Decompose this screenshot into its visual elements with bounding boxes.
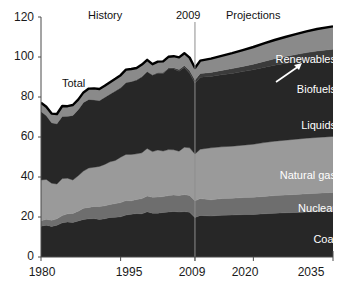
band-label-biofuels: Biofuels	[297, 84, 336, 95]
y-tick-label-100: 100	[0, 50, 34, 62]
x-tick-label-1995: 1995	[107, 266, 151, 278]
x-tick-label-2035: 2035	[288, 266, 334, 278]
y-tick-label-40: 40	[0, 170, 34, 182]
band-label-natural-gas: Natural gas	[280, 170, 336, 181]
projections-label: Projections	[226, 10, 280, 21]
band-label-renewables: Renewables	[275, 54, 336, 65]
total-label: Total	[62, 78, 85, 89]
y-tick-label-20: 20	[0, 210, 34, 222]
band-label-coal: Coal	[313, 234, 336, 245]
history-label: History	[88, 10, 122, 21]
y-tick-label-120: 120	[0, 11, 34, 23]
chart-root: 120 100 80 60 40 20 0 1980 1995 2009 202…	[0, 0, 344, 286]
y-tick-label-80: 80	[0, 90, 34, 102]
stacked-area-chart	[0, 0, 344, 286]
band-label-nuclear: Nuclear	[298, 203, 336, 214]
band-label-liquids: Liquids	[301, 120, 336, 131]
y-tick-label-0: 0	[0, 250, 34, 262]
x-tick-label-2020: 2020	[223, 266, 267, 278]
x-tick-label-1980: 1980	[20, 266, 64, 278]
x-tick-label-2009: 2009	[170, 266, 214, 278]
divider-year-label: 2009	[176, 10, 200, 21]
y-tick-label-60: 60	[0, 130, 34, 142]
